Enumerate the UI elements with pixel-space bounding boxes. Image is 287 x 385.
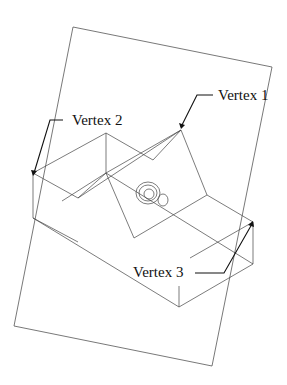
- vertex-3-callout: Vertex 3: [133, 221, 254, 280]
- vertex-1-callout: Vertex 1: [179, 87, 268, 129]
- hole-ring: [136, 182, 168, 206]
- vertex-1-label: Vertex 1: [218, 87, 268, 103]
- block-wireframe: [33, 130, 253, 307]
- wireframe-diagram: Vertex 1 Vertex 2 Vertex 3: [0, 0, 287, 385]
- vertex-2-label: Vertex 2: [72, 112, 122, 128]
- vertex-3-label: Vertex 3: [133, 264, 183, 280]
- cutting-plane-frame: [14, 27, 272, 366]
